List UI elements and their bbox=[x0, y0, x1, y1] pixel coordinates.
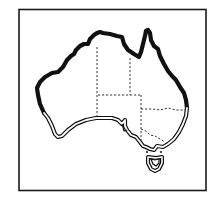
island-dot-west bbox=[146, 151, 148, 153]
australia-distribution-map bbox=[0, 0, 220, 214]
island-dot-east bbox=[160, 151, 162, 153]
